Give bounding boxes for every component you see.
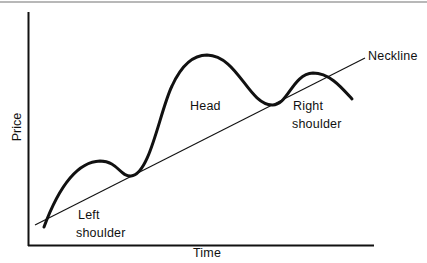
neckline — [35, 58, 365, 225]
head-label: Head — [190, 99, 221, 113]
price-curve — [44, 55, 352, 227]
right-shoulder-label-line2: shoulder — [292, 117, 342, 131]
left-shoulder-label-line1: Left — [78, 208, 100, 222]
neckline-label: Neckline — [368, 49, 418, 63]
head-and-shoulders-chart — [0, 0, 427, 263]
left-shoulder-label-line2: shoulder — [76, 226, 126, 240]
x-axis-label: Time — [193, 246, 221, 260]
y-axis-label: Price — [10, 107, 24, 147]
right-shoulder-label-line1: Right — [293, 99, 323, 113]
